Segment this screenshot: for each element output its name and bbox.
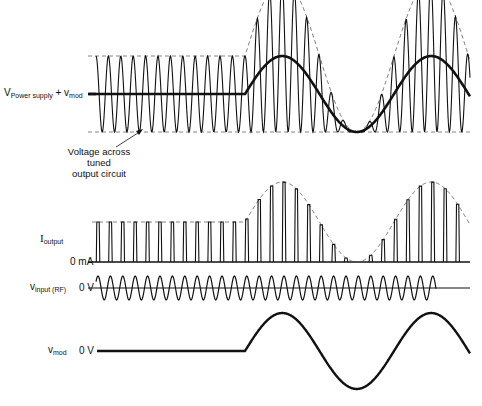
tank-voltage-waveform — [88, 0, 470, 132]
waveform-diagram — [0, 0, 482, 406]
rf-input-waveform — [88, 276, 470, 300]
annotation-arrow — [116, 129, 143, 147]
modulating-signal-waveform — [97, 313, 470, 389]
output-current-pulses — [88, 182, 470, 262]
